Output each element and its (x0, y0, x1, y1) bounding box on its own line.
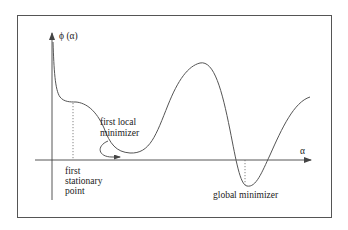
first-stationary-point-line-3: point (65, 186, 85, 196)
first-local-minimizer-line-2: minimizer (100, 128, 140, 138)
first-stationary-point-line-1: first (65, 166, 81, 176)
global-minimizer-label: global minimizer (213, 190, 279, 200)
y-axis-label: ϕ (α) (59, 31, 78, 42)
first-local-minimizer-label: first local minimizer (100, 117, 140, 138)
function-curve (53, 42, 310, 186)
first-stationary-point-label: first stationary point (65, 166, 105, 196)
line-search-diagram: ϕ (α) α first local minimizer first stat… (0, 0, 348, 230)
first-local-minimizer-line-1: first local (100, 117, 137, 127)
first-stationary-point-line-2: stationary (65, 176, 103, 186)
x-axis-label: α (300, 146, 305, 156)
